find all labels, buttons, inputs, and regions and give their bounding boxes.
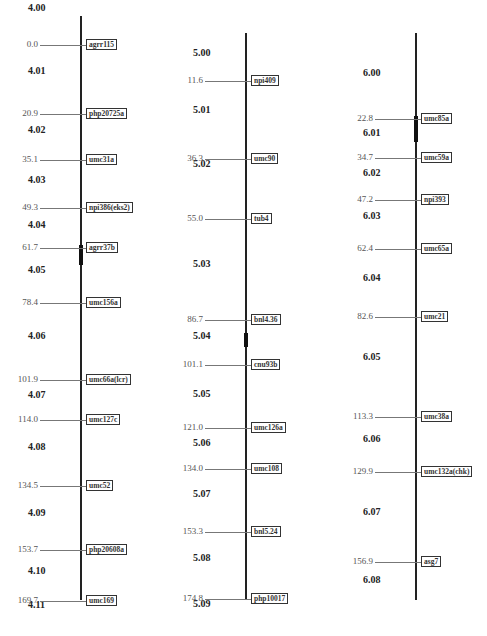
marker-label: umc90	[251, 153, 278, 164]
linkage-map: 4.004.014.024.034.044.054.064.074.084.09…	[0, 0, 487, 636]
marker-position: 134.0	[163, 463, 203, 473]
marker-label: bnl4.36	[251, 314, 281, 325]
marker-position: 114.0	[0, 414, 38, 424]
marker-tick	[40, 420, 86, 421]
marker-tick	[205, 428, 251, 429]
bin-label: 4.08	[28, 441, 46, 452]
marker-tick	[40, 248, 86, 249]
marker-position: 121.0	[163, 422, 203, 432]
marker-position: 169.7	[0, 595, 38, 605]
bin-label: 4.07	[28, 389, 46, 400]
marker-label: agrr37b	[86, 242, 118, 253]
marker-label: bnl5.24	[251, 526, 281, 537]
marker-position: 153.3	[163, 526, 203, 536]
bin-label: 4.05	[28, 264, 46, 275]
marker-tick	[40, 303, 86, 304]
bin-label: 5.06	[193, 437, 211, 448]
marker-position: 35.1	[0, 154, 38, 164]
marker-tick	[375, 562, 421, 563]
marker-tick	[375, 119, 421, 120]
marker-tick	[205, 365, 251, 366]
marker-label: umc132a(chk)	[421, 466, 472, 477]
chromosome-4-axis	[80, 16, 82, 600]
chromosome-5-axis	[245, 33, 247, 600]
marker-position: 0.0	[0, 39, 38, 49]
marker-position: 47.2	[333, 194, 373, 204]
bin-label: 4.06	[28, 330, 46, 341]
marker-position: 62.4	[333, 243, 373, 253]
marker-tick	[40, 486, 86, 487]
marker-position: 153.7	[0, 544, 38, 554]
marker-label: umc156a	[86, 297, 121, 308]
marker-position: 101.1	[163, 359, 203, 369]
marker-label: umc127c	[86, 414, 120, 425]
marker-position: 61.7	[0, 242, 38, 252]
marker-tick	[375, 417, 421, 418]
marker-tick	[40, 601, 86, 602]
marker-label: umc59a	[421, 152, 452, 163]
marker-label: cnu93b	[251, 359, 280, 370]
marker-tick	[40, 208, 86, 209]
marker-tick	[40, 114, 86, 115]
marker-position: 22.8	[333, 113, 373, 123]
bin-label: 6.03	[363, 210, 381, 221]
bin-label: 4.10	[28, 565, 46, 576]
marker-tick	[205, 532, 251, 533]
bin-label: 5.05	[193, 388, 211, 399]
marker-label: umc85a	[421, 113, 452, 124]
marker-label: php10017	[251, 593, 288, 604]
bin-label: 6.08	[363, 574, 381, 585]
marker-label: php20725a	[86, 108, 127, 119]
marker-tick	[375, 472, 421, 473]
bin-label: 5.08	[193, 552, 211, 563]
bin-label: 5.07	[193, 488, 211, 499]
marker-label: npi386(eks2)	[86, 202, 133, 213]
marker-label: npi409	[251, 75, 279, 86]
marker-label: umc169	[86, 595, 117, 606]
marker-tick	[375, 200, 421, 201]
marker-position: 11.6	[163, 75, 203, 85]
bin-label: 6.02	[363, 167, 381, 178]
marker-position: 34.7	[333, 152, 373, 162]
marker-label: umc66a(lcr)	[86, 374, 131, 385]
marker-position: 113.3	[333, 411, 373, 421]
marker-label: umc31a	[86, 154, 117, 165]
marker-label: umc21	[421, 311, 448, 322]
bin-label: 6.01	[363, 127, 381, 138]
marker-label: npi393	[421, 194, 449, 205]
marker-tick	[205, 599, 251, 600]
marker-label: php20608a	[86, 544, 127, 555]
marker-tick	[205, 469, 251, 470]
bin-label: 6.04	[363, 272, 381, 283]
marker-label: umc108	[251, 463, 282, 474]
marker-position: 78.4	[0, 297, 38, 307]
marker-position: 36.3	[163, 153, 203, 163]
marker-label: umc52	[86, 480, 113, 491]
marker-position: 129.9	[333, 466, 373, 476]
marker-position: 49.3	[0, 202, 38, 212]
marker-position: 101.9	[0, 374, 38, 384]
bin-label: 5.03	[193, 258, 211, 269]
marker-tick	[205, 320, 251, 321]
centromere-5	[244, 333, 248, 347]
marker-tick	[205, 159, 251, 160]
marker-tick	[205, 81, 251, 82]
bin-label: 5.00	[193, 47, 211, 58]
marker-tick	[40, 550, 86, 551]
marker-label: agrr115	[86, 39, 117, 50]
marker-label: umc38a	[421, 411, 452, 422]
marker-tick	[375, 158, 421, 159]
marker-tick	[40, 160, 86, 161]
marker-tick	[375, 249, 421, 250]
bin-label: 6.06	[363, 433, 381, 444]
marker-label: asg7	[421, 556, 441, 567]
bin-label: 4.02	[28, 124, 46, 135]
marker-tick	[375, 317, 421, 318]
bin-label: 4.03	[28, 174, 46, 185]
marker-position: 86.7	[163, 314, 203, 324]
marker-tick	[40, 380, 86, 381]
marker-position: 174.8	[163, 593, 203, 603]
bin-label: 5.04	[193, 330, 211, 341]
bin-label: 5.01	[193, 104, 211, 115]
bin-label: 6.05	[363, 351, 381, 362]
